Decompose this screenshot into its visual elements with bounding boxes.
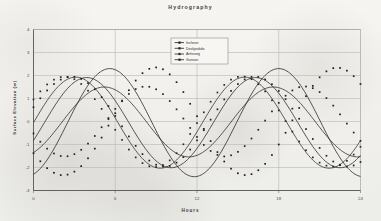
data-point-marker — [298, 86, 300, 88]
data-point-marker — [87, 157, 89, 159]
data-point-marker — [223, 99, 225, 101]
legend-marker-icon — [178, 42, 180, 44]
data-point-marker — [135, 157, 137, 159]
data-point-marker — [271, 111, 273, 113]
data-point-marker — [271, 83, 273, 85]
data-point-marker — [305, 149, 307, 151]
data-point-marker — [210, 140, 212, 142]
data-point-marker — [33, 152, 35, 154]
data-point-marker — [94, 98, 96, 100]
data-point-marker — [80, 83, 82, 85]
data-point-marker — [74, 76, 76, 78]
data-point-marker — [169, 100, 171, 102]
data-point-marker — [33, 99, 35, 101]
data-point-marker — [196, 140, 198, 142]
data-point-marker — [128, 93, 130, 95]
data-point-marker — [114, 112, 116, 114]
data-point-marker — [339, 114, 341, 116]
data-point-marker — [244, 76, 246, 78]
legend-marker-icon — [178, 59, 180, 61]
data-point-marker — [108, 125, 110, 127]
data-point-marker — [257, 129, 259, 131]
legend-marker-icon — [178, 53, 180, 55]
data-point-marker — [285, 98, 287, 100]
data-point-marker — [114, 115, 116, 117]
data-point-marker — [80, 78, 82, 80]
data-point-marker — [148, 160, 150, 162]
data-point-marker — [326, 71, 328, 73]
hydrography-chart: Hydrography Hours Surface Elevation (m) … — [0, 0, 381, 221]
data-point-marker — [60, 174, 62, 176]
data-point-marker — [135, 88, 137, 90]
data-point-marker — [121, 139, 123, 141]
data-point-marker — [264, 91, 266, 93]
data-point-marker — [223, 156, 225, 158]
data-point-marker — [60, 79, 62, 81]
data-point-marker — [67, 155, 69, 157]
data-point-marker — [244, 174, 246, 176]
data-point-marker — [74, 78, 76, 80]
data-point-marker — [217, 154, 219, 156]
legend-label: Incheon — [186, 41, 199, 45]
data-point-marker — [87, 82, 89, 84]
data-point-marker — [278, 102, 280, 104]
plot-svg: 43210-1-2-3 06121824 IncheonDeokjeokdoAn… — [0, 0, 381, 221]
data-point-marker — [33, 133, 35, 135]
data-point-marker — [271, 154, 273, 156]
data-point-marker — [108, 118, 110, 120]
chart-legend[interactable]: IncheonDeokjeokdoAnheungGunsan — [171, 38, 228, 64]
data-point-marker — [196, 122, 198, 124]
data-point-marker — [264, 163, 266, 165]
data-point-marker — [285, 120, 287, 122]
data-point-marker — [142, 153, 144, 155]
data-point-marker — [142, 162, 144, 164]
data-point-marker — [271, 99, 273, 101]
data-point-marker — [87, 143, 89, 145]
data-point-marker — [155, 88, 157, 90]
data-point-marker — [237, 151, 239, 153]
y-tick-label: -1 — [26, 142, 30, 147]
data-point-marker — [74, 153, 76, 155]
data-point-marker — [101, 108, 103, 110]
y-axis-tick-labels: 43210-1-2-3 — [26, 27, 30, 193]
data-point-marker — [46, 167, 48, 169]
data-point-marker — [346, 166, 348, 168]
data-point-marker — [292, 120, 294, 122]
data-point-marker — [264, 120, 266, 122]
data-point-marker — [244, 79, 246, 81]
data-point-marker — [332, 67, 334, 69]
y-tick-label: -3 — [26, 188, 30, 193]
y-tick-label: 0 — [27, 119, 30, 124]
data-point-marker — [353, 132, 355, 134]
data-point-marker — [101, 96, 103, 98]
data-point-marker — [251, 138, 253, 140]
data-point-marker — [312, 85, 314, 87]
data-point-marker — [128, 89, 130, 91]
data-point-marker — [121, 100, 123, 102]
data-point-marker — [251, 173, 253, 175]
data-point-marker — [189, 127, 191, 129]
data-point-marker — [223, 84, 225, 86]
y-tick-label: 2 — [27, 73, 30, 78]
data-point-marker — [155, 164, 157, 166]
data-point-marker — [53, 172, 55, 174]
data-point-marker — [203, 129, 205, 131]
data-point-marker — [319, 76, 321, 78]
data-point-marker — [353, 154, 355, 156]
y-tick-label: 3 — [27, 50, 30, 55]
data-point-marker — [360, 146, 362, 148]
y-tick-label: -2 — [26, 165, 30, 170]
data-point-marker — [53, 79, 55, 81]
data-point-marker — [169, 160, 171, 162]
data-point-marker — [148, 166, 150, 168]
x-tick-label: 6 — [114, 196, 117, 201]
data-point-marker — [46, 148, 48, 150]
data-point-marker — [183, 118, 185, 120]
data-point-marker — [87, 90, 89, 92]
data-point-marker — [305, 128, 307, 130]
data-point-marker — [292, 90, 294, 92]
data-point-marker — [46, 90, 48, 92]
data-point-marker — [319, 147, 321, 149]
data-point-marker — [285, 132, 287, 134]
data-point-marker — [312, 157, 314, 159]
